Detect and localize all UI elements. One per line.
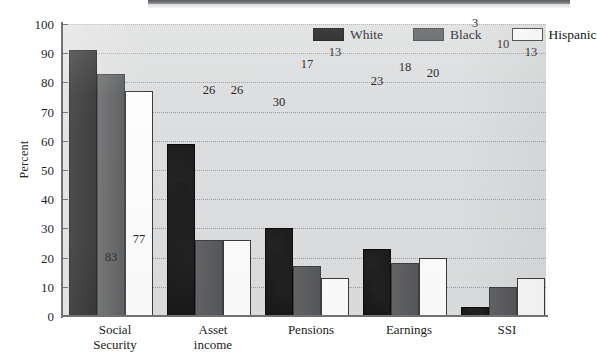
value-pensions-black: 17 xyxy=(288,58,326,71)
x-category-label-earnings: Earnings xyxy=(364,322,454,337)
y-tick-mark-100 xyxy=(63,24,68,25)
bar-asset-income-black[interactable] xyxy=(195,240,223,316)
bar-asset-income-hispanic[interactable] xyxy=(223,240,251,316)
value-asset-income-white: 59 xyxy=(162,181,200,194)
legend-label-hispanic: Hispanic xyxy=(549,28,597,42)
y-tick-mark-20 xyxy=(63,258,68,259)
y-tick-label-80: 80 xyxy=(14,76,54,89)
y-tick-mark-80 xyxy=(63,82,68,83)
legend-item-black[interactable]: Black xyxy=(413,28,482,42)
gridline-90 xyxy=(62,53,546,54)
chart-legend: White Black Hispanic xyxy=(313,26,597,43)
value-social-security-white: 91 xyxy=(64,274,102,287)
bar-earnings-black[interactable] xyxy=(391,263,419,316)
legend-swatch-black-icon xyxy=(413,28,444,41)
value-asset-income-hispanic: 26 xyxy=(218,84,256,97)
y-tick-mark-60 xyxy=(63,141,68,142)
value-earnings-white: 23 xyxy=(358,75,396,88)
y-tick-mark-90 xyxy=(63,53,68,54)
value-social-security-hispanic: 77 xyxy=(120,233,158,246)
value-social-security-black: 83 xyxy=(92,251,130,264)
value-ssi-hispanic: 13 xyxy=(512,46,550,59)
x-category-label-asset-income-line1: Asset xyxy=(168,322,258,337)
y-tick-label-30: 30 xyxy=(14,222,54,235)
y-tick-mark-40 xyxy=(63,199,68,200)
y-tick-mark-10 xyxy=(63,287,68,288)
bar-earnings-hispanic[interactable] xyxy=(419,258,447,316)
y-tick-label-10: 10 xyxy=(14,281,54,294)
value-pensions-white: 30 xyxy=(260,96,298,109)
x-category-label-asset-income-line2: income xyxy=(168,337,258,352)
y-tick-mark-50 xyxy=(63,170,68,171)
bar-earnings-white[interactable] xyxy=(363,249,391,316)
plot-area: 91 83 77 59 26 26 30 17 13 23 18 20 3 10… xyxy=(62,24,546,316)
bar-social-security-hispanic[interactable] xyxy=(125,91,153,316)
y-tick-mark-70 xyxy=(63,112,68,113)
value-earnings-hispanic: 20 xyxy=(414,67,452,80)
value-pensions-hispanic: 13 xyxy=(316,46,354,59)
legend-label-black: Black xyxy=(450,28,482,42)
bar-ssi-black[interactable] xyxy=(489,287,517,316)
x-category-label-ssi: SSI xyxy=(462,322,552,337)
legend-item-white[interactable]: White xyxy=(313,28,383,42)
y-tick-label-20: 20 xyxy=(14,252,54,265)
bar-pensions-black[interactable] xyxy=(293,266,321,316)
y-tick-label-100: 100 xyxy=(14,18,54,31)
legend-swatch-white-icon xyxy=(313,28,344,41)
x-axis-line xyxy=(61,315,548,317)
y-tick-label-70: 70 xyxy=(14,106,54,119)
gridline-80 xyxy=(62,82,546,83)
bar-pensions-white[interactable] xyxy=(265,228,293,316)
bar-asset-income-white[interactable] xyxy=(167,144,195,316)
y-axis-title: Percent xyxy=(17,120,32,200)
legend-swatch-hispanic-icon xyxy=(512,28,543,41)
x-category-label-social-security-line2: Security xyxy=(70,337,160,352)
y-tick-label-0: 0 xyxy=(14,310,54,323)
x-category-label-social-security-line1: Social xyxy=(70,322,160,337)
y-tick-label-90: 90 xyxy=(14,47,54,60)
bar-pensions-hispanic[interactable] xyxy=(321,278,349,316)
y-tick-mark-30 xyxy=(63,228,68,229)
x-category-label-pensions: Pensions xyxy=(266,322,356,337)
bar-ssi-hispanic[interactable] xyxy=(517,278,545,316)
legend-item-hispanic[interactable]: Hispanic xyxy=(512,28,597,42)
legend-label-white: White xyxy=(350,28,383,42)
